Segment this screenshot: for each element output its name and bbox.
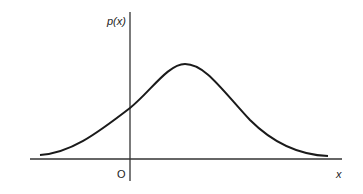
x-axis-label: x	[336, 168, 342, 180]
chart-canvas	[0, 0, 363, 194]
y-axis-label: p(x)	[107, 15, 126, 27]
origin-label: O	[117, 168, 126, 180]
density-curve	[40, 64, 328, 156]
